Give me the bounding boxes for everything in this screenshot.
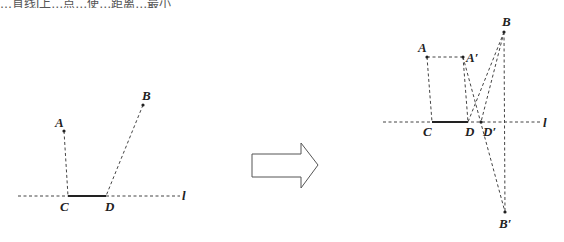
segment-bb-prime [504, 32, 505, 212]
label-d-left: D [104, 199, 115, 214]
segment-a-prime-d [463, 57, 468, 122]
segment-bd-prime [481, 32, 504, 122]
label-d-right: D [464, 124, 475, 139]
segment-ac-right [427, 57, 432, 122]
label-a-prime: A′ [465, 50, 479, 65]
segment-bd-left [106, 105, 143, 196]
segment-ac-left [64, 131, 68, 196]
label-a-left: A [54, 115, 64, 130]
label-c-right: C [423, 124, 432, 139]
label-l-left: l [182, 188, 186, 203]
segment-bd-right [468, 32, 504, 122]
right-arrow-icon [252, 143, 318, 188]
label-c-left: C [60, 199, 69, 214]
point-b-right [502, 30, 505, 33]
point-b-left [141, 103, 144, 106]
label-b-prime: B′ [498, 216, 512, 231]
point-a-right [425, 55, 428, 58]
point-b-prime [503, 210, 506, 213]
geometry-diagram: A B C D l A A′ B B′ C D D′ l [0, 0, 564, 242]
label-b-left: B [141, 88, 151, 103]
label-b-right: B [501, 14, 511, 29]
label-l-right: l [543, 115, 547, 130]
label-a-right: A [417, 40, 427, 55]
left-figure: A B C D l [18, 88, 186, 214]
right-figure: A A′ B B′ C D D′ l [383, 14, 547, 231]
point-a-prime [461, 55, 464, 58]
label-d-prime: D′ [482, 124, 496, 139]
